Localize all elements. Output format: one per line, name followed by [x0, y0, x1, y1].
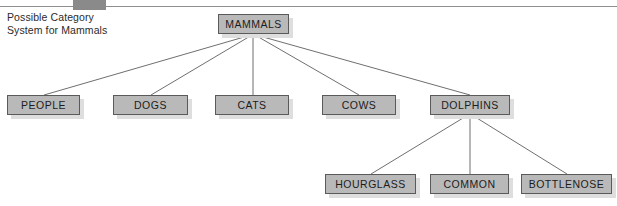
node-label: CATS	[237, 100, 266, 111]
node-label: DOGS	[134, 100, 167, 111]
node-cats[interactable]: CATS	[215, 95, 289, 115]
node-dolphins[interactable]: DOLPHINS	[430, 95, 510, 115]
node-label: COMMON	[444, 179, 496, 190]
node-label: PEOPLE	[21, 100, 66, 111]
node-common[interactable]: COMMON	[430, 174, 509, 194]
node-label: COWS	[342, 100, 377, 111]
edge-mammals-dolphins	[256, 35, 470, 95]
node-label: BOTTLENOSE	[529, 179, 605, 190]
edge-mammals-cows	[255, 35, 359, 95]
node-people[interactable]: PEOPLE	[7, 95, 80, 115]
edge-mammals-people	[44, 35, 251, 95]
node-label: DOLPHINS	[441, 100, 499, 111]
node-mammals[interactable]: MAMMALS	[218, 14, 289, 34]
node-cows[interactable]: COWS	[322, 95, 396, 115]
node-bottlenose[interactable]: BOTTLENOSE	[521, 174, 612, 194]
node-hourglass[interactable]: HOURGLASS	[325, 174, 416, 194]
node-label: HOURGLASS	[335, 179, 405, 190]
node-label: MAMMALS	[225, 19, 282, 30]
edge-mammals-dogs	[151, 35, 252, 95]
edge-dolphins-bottlenose	[472, 115, 567, 174]
category-system-figure: Possible Category System for Mammals MAM…	[0, 0, 617, 206]
edge-dolphins-hourglass	[371, 115, 468, 174]
node-dogs[interactable]: DOGS	[113, 95, 188, 115]
